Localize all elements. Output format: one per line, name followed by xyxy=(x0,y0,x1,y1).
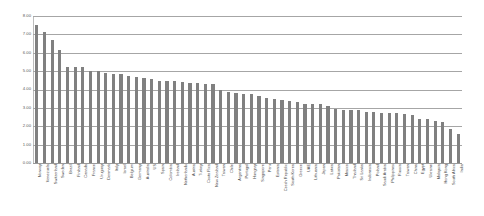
bar[interactable] xyxy=(441,122,444,163)
bar[interactable] xyxy=(273,99,276,163)
x-tick-label: Denmark xyxy=(107,164,111,180)
bar-chart: 8.007.006.005.004.003.002.001.000.00 Nor… xyxy=(0,0,484,216)
x-tick-label: Estonia xyxy=(276,164,280,177)
bar[interactable] xyxy=(242,94,245,163)
x-tick-label: Indonesia xyxy=(368,164,372,181)
bar[interactable] xyxy=(296,102,299,163)
bar[interactable] xyxy=(434,121,437,163)
bar[interactable] xyxy=(457,134,460,163)
x-tick-label: Uruguay xyxy=(100,164,104,179)
bar[interactable] xyxy=(97,71,100,163)
bar[interactable] xyxy=(365,112,368,163)
bar[interactable] xyxy=(349,110,352,163)
plot-area xyxy=(33,16,462,163)
x-tick-label: Venezuela xyxy=(46,164,50,182)
x-tick-label: Czech Republic xyxy=(284,164,288,191)
bar[interactable] xyxy=(326,106,329,163)
bar[interactable] xyxy=(165,81,168,163)
bar[interactable] xyxy=(342,110,345,163)
bar[interactable] xyxy=(219,90,222,163)
x-tick-label: Brazil xyxy=(69,164,73,174)
bar[interactable] xyxy=(372,112,375,163)
bar[interactable] xyxy=(204,84,207,163)
bar[interactable] xyxy=(158,81,161,163)
bar[interactable] xyxy=(449,129,452,163)
x-tick-label: Egypt xyxy=(421,164,425,174)
bar[interactable] xyxy=(196,83,199,163)
bar[interactable] xyxy=(319,104,322,163)
bar[interactable] xyxy=(81,67,84,163)
bar[interactable] xyxy=(119,74,122,163)
x-tick-label: Hong Kong xyxy=(444,164,448,183)
x-tick-label: Pakistan xyxy=(337,164,341,179)
x-tick-label: India xyxy=(460,164,464,172)
x-tick-label: Israel xyxy=(123,164,127,174)
bar[interactable] xyxy=(426,119,429,163)
y-tick-label: 2.00 xyxy=(23,124,31,128)
x-tick-label: Spain xyxy=(161,164,165,174)
bar[interactable] xyxy=(227,92,230,163)
x-tick-label: UAE xyxy=(307,164,311,172)
y-tick-label: 1.00 xyxy=(23,143,31,147)
bar[interactable] xyxy=(112,74,115,163)
bar[interactable] xyxy=(66,67,69,163)
bar[interactable] xyxy=(257,96,260,163)
bar[interactable] xyxy=(380,113,383,163)
bar[interactable] xyxy=(265,98,268,163)
bar[interactable] xyxy=(181,82,184,163)
bar[interactable] xyxy=(303,104,306,163)
bar[interactable] xyxy=(43,32,46,163)
x-tick-label: Finland xyxy=(77,164,81,177)
bar[interactable] xyxy=(334,109,337,163)
bar[interactable] xyxy=(104,73,107,163)
bar[interactable] xyxy=(250,94,253,163)
bar[interactable] xyxy=(311,104,314,163)
bar[interactable] xyxy=(388,113,391,163)
bar[interactable] xyxy=(135,77,138,163)
bar[interactable] xyxy=(288,101,291,163)
x-tick-label: Ukraine xyxy=(429,164,433,177)
y-tick-label: 5.00 xyxy=(23,69,31,73)
bar[interactable] xyxy=(403,114,406,163)
x-tick-label: Lithuania xyxy=(314,164,318,180)
x-tick-label: Australia xyxy=(146,164,150,179)
x-tick-label: Chile xyxy=(230,164,234,173)
x-tick-label: Russia xyxy=(398,164,402,176)
bar[interactable] xyxy=(188,83,191,163)
bar[interactable] xyxy=(395,113,398,163)
x-tick-label: Germany xyxy=(138,164,142,180)
x-tick-label: Thailand xyxy=(353,164,357,179)
bar[interactable] xyxy=(51,40,54,163)
bar[interactable] xyxy=(418,119,421,163)
bar[interactable] xyxy=(74,67,77,163)
bar[interactable] xyxy=(150,79,153,163)
x-tick-label: Singapore xyxy=(261,164,265,182)
x-tick-label: Belgium xyxy=(130,164,134,178)
bar[interactable] xyxy=(142,78,145,163)
bar[interactable] xyxy=(35,25,38,163)
x-tick-label: Costa Rica xyxy=(207,164,211,183)
x-tick-label: Saudi Arabia xyxy=(383,164,387,186)
bar[interactable] xyxy=(173,81,176,163)
bar[interactable] xyxy=(234,93,237,163)
bar[interactable] xyxy=(357,110,360,163)
x-tick-label: Canada xyxy=(84,164,88,178)
x-tick-label: Norway xyxy=(38,164,42,177)
bar[interactable] xyxy=(127,76,130,163)
x-tick-label: Taiwan xyxy=(406,164,410,176)
x-tick-label: Latvia xyxy=(330,164,334,174)
x-tick-label: Ireland xyxy=(176,164,180,176)
bar[interactable] xyxy=(280,100,283,163)
bar[interactable] xyxy=(411,115,414,163)
x-tick-label: Peru xyxy=(268,164,272,172)
bar[interactable] xyxy=(211,84,214,163)
bar[interactable] xyxy=(89,71,92,163)
x-tick-label: Malaysia xyxy=(437,164,441,179)
bars-layer xyxy=(33,16,462,163)
x-tick-label: Taiwan xyxy=(222,164,226,176)
x-tick-label: Sri Lanka xyxy=(360,164,364,180)
y-tick-label: 8.00 xyxy=(23,14,31,18)
bar[interactable] xyxy=(58,50,61,163)
y-tick-label: 6.00 xyxy=(23,51,31,55)
x-tick-label: South Korea xyxy=(291,164,295,186)
